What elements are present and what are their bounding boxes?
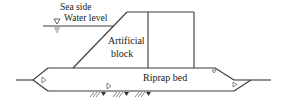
sea-side-label: Sea side	[60, 3, 91, 13]
artificial-block-label-line1: Artificial	[108, 36, 145, 46]
stone-marker-icons	[42, 70, 237, 89]
artificial-block-label-line2: block	[111, 49, 133, 59]
water-level-label: Water level	[64, 14, 107, 24]
riprap-bed-label: Riprap bed	[143, 73, 187, 83]
breakwater-diagram	[0, 0, 287, 104]
seabed-hatch-icon	[90, 92, 151, 97]
